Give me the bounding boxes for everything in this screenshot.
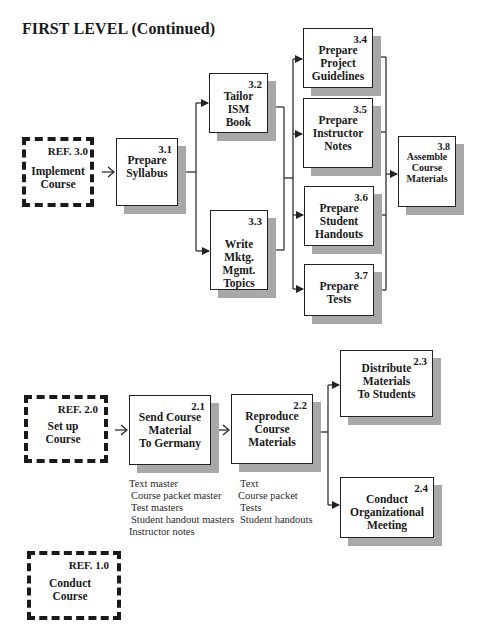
ref-label-line: Course: [22, 178, 94, 191]
node-label-line: Tests: [305, 293, 373, 306]
node-label-line: Student: [305, 215, 373, 228]
node-label-line: Prepare: [304, 44, 372, 57]
node-2-2: 2.2 Reproduce Course Materials: [231, 394, 313, 464]
node-2-3: 2.3 Distribute Materials To Students: [340, 350, 433, 417]
node-label-line: Guidelines: [304, 70, 372, 83]
ref-label-line: Set up: [18, 420, 108, 433]
node-label-line: Notes: [304, 140, 372, 153]
node-label-line: To Students: [341, 388, 432, 401]
ref-box-3-0: REF. 3.0 Implement Course: [22, 137, 94, 207]
output-item: Course packet: [238, 490, 313, 502]
ref-label-line: Conduct: [19, 577, 121, 590]
ref-number: REF. 2.0: [58, 403, 98, 416]
node-label-line: Write: [211, 238, 267, 251]
node-3-4: 3.4 Prepare Project Guidelines: [303, 28, 373, 88]
node-3-5: 3.5 Prepare Instructor Notes: [303, 98, 373, 168]
node-label-line: Handouts: [305, 228, 373, 241]
node-label-line: Organizational: [341, 506, 433, 519]
node-label-line: Prepare: [305, 202, 373, 215]
node-2-1-outputs: Text master Course packet master Test ma…: [129, 478, 234, 538]
node-3-3: 3.3 Write Mktg. Mgmt. Topics: [210, 210, 268, 290]
node-label-line: Materials: [232, 436, 312, 449]
node-label-line: Assemble: [399, 151, 455, 162]
node-2-2-outputs: Text Course packet Tests Student handout…: [238, 478, 313, 526]
ref-number: REF. 3.0: [48, 145, 88, 158]
node-label-line: Syllabus: [117, 167, 177, 180]
node-2-4: 2.4 Conduct Organizational Meeting: [340, 477, 434, 538]
node-label-line: Prepare: [305, 280, 373, 293]
output-item: Tests: [238, 502, 313, 514]
node-label-line: Material: [130, 424, 210, 437]
node-3-6: 3.6 Prepare Student Handouts: [304, 186, 374, 246]
node-label-line: Course: [399, 162, 455, 173]
node-label-line: Project: [304, 57, 372, 70]
node-label-line: Instructor: [304, 127, 372, 140]
output-item: Student handout masters: [129, 514, 234, 526]
node-label-line: Course: [232, 423, 312, 436]
node-label-line: Prepare: [117, 154, 177, 167]
node-label-line: Materials: [399, 173, 455, 184]
node-label-line: ISM: [210, 103, 267, 116]
node-label-line: Meeting: [341, 519, 433, 532]
node-label-line: Topics: [211, 277, 267, 290]
node-label-line: Materials: [341, 375, 432, 388]
node-label-line: Reproduce: [232, 410, 312, 423]
node-label-line: Tailor: [210, 90, 267, 103]
node-label-line: To Germany: [130, 437, 210, 450]
output-item: Course packet master: [129, 490, 234, 502]
output-item: Instructor notes: [129, 526, 234, 538]
node-label-line: Distribute: [341, 362, 432, 375]
ref-label-line: Implement: [22, 165, 94, 178]
output-item: Student handouts: [238, 514, 313, 526]
output-item: Text master: [129, 478, 234, 490]
node-label-line: Mktg.: [211, 251, 267, 264]
node-number: 3.3: [248, 215, 262, 228]
node-3-8: 3.8 Assemble Course Materials: [398, 136, 456, 207]
node-3-1: 3.1 Prepare Syllabus: [116, 138, 178, 206]
output-item: Test masters: [129, 502, 234, 514]
output-item: Text: [238, 478, 313, 490]
node-3-7: 3.7 Prepare Tests: [304, 264, 374, 316]
node-label-line: Book: [210, 116, 267, 129]
node-label-line: Prepare: [304, 114, 372, 127]
node-2-1: 2.1 Send Course Material To Germany: [129, 395, 211, 465]
node-label-line: Mgmt.: [211, 264, 267, 277]
node-label-line: Conduct: [341, 493, 433, 506]
ref-box-2-0: REF. 2.0 Set up Course: [24, 395, 108, 463]
node-label-line: Send Course: [130, 411, 210, 424]
ref-box-1-0: REF. 1.0 Conduct Course: [27, 551, 121, 620]
ref-label-line: Course: [18, 433, 108, 446]
ref-number: REF. 1.0: [69, 559, 109, 572]
ref-label-line: Course: [19, 590, 121, 603]
node-3-2: 3.2 Tailor ISM Book: [209, 73, 268, 133]
